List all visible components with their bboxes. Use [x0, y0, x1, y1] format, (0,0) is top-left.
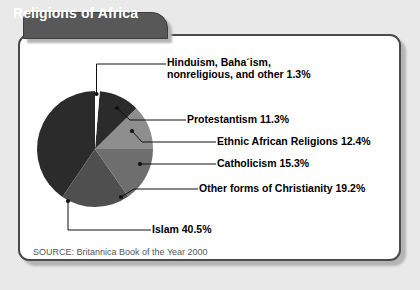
callout-protestantism: Protestantism 11.3%	[187, 114, 289, 126]
callout-labels: Hinduism, Baha´ism, nonreligious, and ot…	[0, 0, 420, 290]
callout-catholicism: Catholicism 15.3%	[217, 158, 309, 170]
callout-hinduism-line1: Hinduism, Baha´ism,	[167, 57, 271, 69]
callout-hinduism-line2: nonreligious, and other 1.3%	[167, 69, 311, 81]
callout-ethnic-african: Ethnic African Religions 12.4%	[217, 136, 371, 148]
infographic-root: Religions of Africa	[0, 0, 420, 290]
callout-islam: Islam 40.5%	[152, 224, 212, 236]
source-note: SOURCE: Britannica Book of the Year 2000	[33, 247, 208, 257]
callout-other-christianity: Other forms of Christianity 19.2%	[199, 183, 365, 195]
